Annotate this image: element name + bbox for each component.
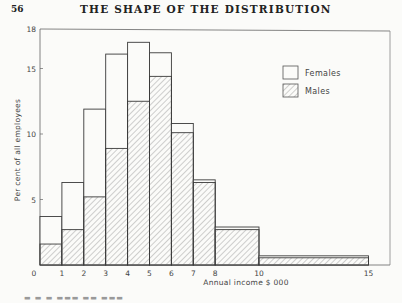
x-axis-ticks: 0123456781015: [32, 269, 374, 278]
bar-males-segment: [259, 258, 369, 265]
bar-males-segment: [62, 230, 84, 265]
histogram-bar: [259, 256, 369, 265]
bar-males-segment: [128, 101, 150, 265]
legend: Females Males: [283, 66, 341, 97]
legend-label-females: Females: [305, 69, 341, 78]
y-axis-label: Per cent of all employees: [13, 99, 22, 201]
y-axis-ticks: 5101518: [26, 25, 43, 204]
histogram-bar: [40, 217, 62, 265]
y-tick-label: 18: [26, 25, 36, 34]
histogram-bar: [106, 54, 128, 265]
bar-males-segment: [193, 182, 215, 265]
x-tick-label: 6: [169, 269, 174, 278]
histogram-bar: [84, 109, 106, 265]
legend-swatch-females: [283, 66, 298, 79]
bar-males-segment: [40, 244, 62, 265]
x-axis-label: Annual income $ 000: [203, 278, 288, 287]
x-tick-label: 10: [254, 269, 264, 278]
histogram-bar: [150, 53, 172, 265]
bar-males-segment: [215, 230, 259, 265]
histogram-bar: [128, 42, 150, 265]
histogram-bar: [193, 180, 215, 265]
histogram-chart: 5101518 0123456781015 Annual income $ 00…: [0, 0, 402, 303]
histogram-bar: [62, 182, 84, 265]
y-tick-label: 5: [31, 196, 36, 205]
x-tick-label: 5: [147, 269, 152, 278]
legend-swatch-males: [283, 84, 298, 97]
bar-males-segment: [84, 197, 106, 265]
x-tick-label: 2: [81, 269, 86, 278]
x-tick-label: 4: [125, 269, 130, 278]
legend-label-males: Males: [305, 87, 330, 96]
bar-males-segment: [171, 133, 193, 265]
y-tick-label: 10: [26, 130, 36, 139]
y-tick-label: 15: [26, 65, 36, 74]
x-tick-label: 3: [103, 269, 108, 278]
x-tick-label: 1: [60, 269, 65, 278]
bar-males-segment: [106, 148, 128, 265]
x-tick-label: 7: [191, 269, 196, 278]
x-tick-label: 8: [213, 269, 218, 278]
figure-caption-partial: ▬ ▬ ▬ ▬▬▬ ▬▬ ▬▬▬: [24, 294, 124, 302]
x-tick-label: 15: [364, 269, 374, 278]
bar-males-segment: [150, 76, 172, 265]
histogram-bar: [215, 227, 259, 265]
histogram-bar: [171, 124, 193, 265]
x-tick-label: 0: [32, 269, 37, 278]
